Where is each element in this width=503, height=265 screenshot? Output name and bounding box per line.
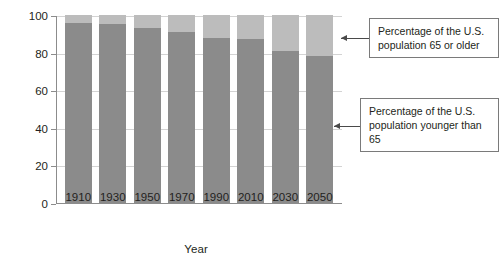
y-tick-label: 80 — [35, 48, 48, 60]
y-axis-title: Percentage — [4, 0, 18, 28]
x-axis-line — [56, 203, 342, 204]
bar-group[interactable] — [168, 15, 195, 203]
bar-segment-65-or-older[interactable] — [168, 15, 195, 32]
bar-group[interactable] — [65, 15, 92, 203]
x-tick-label: 1990 — [197, 191, 235, 203]
bar-segment-younger-than-65[interactable] — [306, 56, 333, 203]
bar-segment-65-or-older[interactable] — [65, 15, 92, 23]
y-tick-mark — [51, 91, 56, 92]
annotation-younger-text: Percentage of the U.S. population younge… — [369, 105, 482, 145]
bar-segment-younger-than-65[interactable] — [203, 38, 230, 203]
bar-segment-younger-than-65[interactable] — [237, 39, 264, 203]
bar-segment-65-or-older[interactable] — [203, 15, 230, 38]
bar-segment-younger-than-65[interactable] — [272, 51, 299, 203]
x-axis-title: Year — [60, 243, 332, 255]
bar-group[interactable] — [272, 15, 299, 203]
bar-group[interactable] — [306, 15, 333, 203]
x-tick-label: 1930 — [94, 191, 132, 203]
y-tick-label: 40 — [35, 123, 48, 135]
bar-segment-65-or-older[interactable] — [237, 15, 264, 39]
bar-segment-65-or-older[interactable] — [306, 15, 333, 56]
y-tick-mark — [51, 54, 56, 55]
y-tick-mark — [51, 129, 56, 130]
bar-segment-younger-than-65[interactable] — [65, 23, 92, 203]
y-tick-mark — [51, 16, 56, 17]
annotation-older: Percentage of the U.S. population 65 or … — [369, 18, 499, 58]
bar-segment-65-or-older[interactable] — [134, 15, 161, 28]
bar-group[interactable] — [99, 15, 126, 203]
y-tick-mark — [51, 204, 56, 205]
bar-segment-65-or-older[interactable] — [272, 15, 299, 51]
annotation-older-arrow-icon — [341, 35, 347, 41]
bar-group[interactable] — [203, 15, 230, 203]
y-tick-label: 100 — [29, 10, 48, 22]
bar-segment-65-or-older[interactable] — [99, 15, 126, 24]
x-tick-label: 1970 — [163, 191, 201, 203]
plot-area: 020406080100 — [56, 16, 342, 204]
bar-segment-younger-than-65[interactable] — [134, 28, 161, 203]
bar-segment-younger-than-65[interactable] — [168, 32, 195, 203]
bar-group[interactable] — [134, 15, 161, 203]
y-tick-label: 20 — [35, 160, 48, 172]
y-tick-mark — [51, 166, 56, 167]
x-tick-label: 1910 — [59, 191, 97, 203]
x-tick-label: 1950 — [128, 191, 166, 203]
bar-group[interactable] — [237, 15, 264, 203]
bar-segment-younger-than-65[interactable] — [99, 24, 126, 203]
annotation-younger-arrow-icon — [334, 123, 340, 129]
annotation-older-text: Percentage of the U.S. population 65 or … — [378, 25, 484, 51]
x-tick-label: 2030 — [266, 191, 304, 203]
y-tick-label: 0 — [42, 198, 48, 210]
annotation-younger: Percentage of the U.S. population younge… — [360, 98, 499, 152]
y-axis-line — [56, 16, 57, 204]
y-tick-label: 60 — [35, 85, 48, 97]
x-tick-label: 2010 — [232, 191, 270, 203]
x-tick-label: 2050 — [301, 191, 339, 203]
chart-figure: Percentage 020406080100 1910193019501970… — [0, 0, 503, 265]
